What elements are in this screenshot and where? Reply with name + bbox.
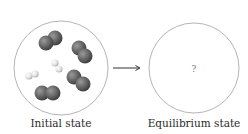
initial-state-panel (14, 21, 108, 115)
large-diatomic-molecule (35, 86, 61, 101)
unknown-question-mark: ? (192, 64, 197, 74)
small-diatomic-molecule (51, 59, 62, 72)
large-diatomic-molecule (67, 70, 91, 92)
equilibrium-state-panel: ? (149, 23, 239, 113)
initial-state-label: Initial state (21, 117, 101, 129)
large-diatomic-molecule (72, 41, 93, 64)
equilibrium-state-label: Equilibrium state (146, 117, 242, 129)
large-diatomic-molecule (39, 31, 63, 51)
reaction-arrow (113, 66, 140, 71)
diagram-canvas: ? (0, 0, 248, 134)
small-diatomic-molecule (25, 70, 38, 79)
